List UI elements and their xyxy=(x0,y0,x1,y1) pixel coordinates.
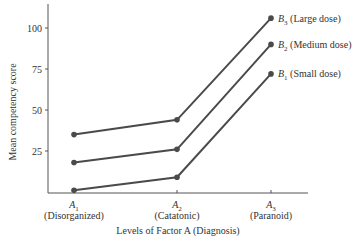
x-category-description: (Disorganized) xyxy=(44,210,104,222)
data-point xyxy=(268,15,274,21)
y-tick-label: 25 xyxy=(32,146,42,157)
y-tick-label: 75 xyxy=(32,64,42,75)
series-lines xyxy=(71,15,274,193)
axes xyxy=(48,4,308,193)
data-point xyxy=(268,42,274,48)
series-line xyxy=(74,74,271,190)
legend: B3 (Large dose)B2 (Medium dose)B1 (Small… xyxy=(278,13,352,83)
data-point xyxy=(174,117,180,123)
x-axis-title: Levels of Factor A (Diagnosis) xyxy=(116,225,239,237)
data-point xyxy=(71,188,77,194)
data-point xyxy=(174,147,180,153)
data-point xyxy=(71,160,77,166)
legend-label: B2 (Medium dose) xyxy=(278,39,352,53)
data-point xyxy=(174,174,180,180)
y-tick-label: 100 xyxy=(27,23,42,34)
series-line xyxy=(74,44,271,162)
x-category-description: (Catatonic) xyxy=(155,210,200,222)
x-ticks: A1(Disorganized)A2(Catatonic)A3(Paranoid… xyxy=(44,190,292,222)
data-point xyxy=(71,132,77,138)
y-axis-title: Mean competency score xyxy=(7,63,18,161)
data-point xyxy=(268,71,274,77)
legend-label: B3 (Large dose) xyxy=(278,13,341,27)
x-category-description: (Paranoid) xyxy=(250,210,292,222)
legend-label: B1 (Small dose) xyxy=(278,68,341,82)
interaction-line-chart: 255075100 A1(Disorganized)A2(Catatonic)A… xyxy=(0,0,360,240)
y-ticks: 255075100 xyxy=(27,23,48,157)
y-tick-label: 50 xyxy=(32,105,42,116)
